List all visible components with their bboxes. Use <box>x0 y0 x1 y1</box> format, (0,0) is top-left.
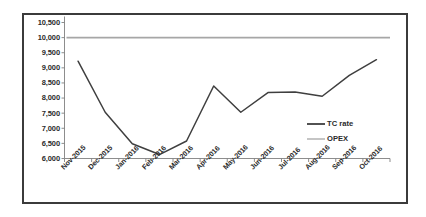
y-axis-tick-label: 6,500 <box>26 139 60 148</box>
legend-layer <box>307 124 325 139</box>
y-axis-tick-label: 8,000 <box>26 93 60 102</box>
y-axis-tick-label: 9,500 <box>26 48 60 57</box>
y-axis-tick-label: 7,000 <box>26 124 60 133</box>
legend-label-tc-rate[interactable]: TC rate <box>327 119 353 128</box>
chart-plot-svg <box>0 0 426 217</box>
y-axis-tick-label: 7,500 <box>26 109 60 118</box>
legend-label-opex[interactable]: OPEX <box>327 134 348 143</box>
y-axis-tick-label: 10,000 <box>26 33 60 42</box>
y-axis-tick-label: 9,000 <box>26 63 60 72</box>
y-axis-tick-label: 6,000 <box>26 154 60 163</box>
y-axis-tick-label: 8,500 <box>26 78 60 87</box>
y-axis-tick-label: 10,500 <box>26 18 60 27</box>
